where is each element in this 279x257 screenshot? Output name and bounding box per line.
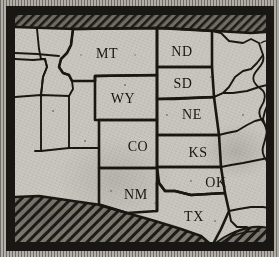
map-drawing: MT ND SD WY NE CO KS NM OK TX — [15, 15, 266, 242]
state-label-nm: NM — [124, 187, 148, 202]
state-label-co: CO — [128, 139, 149, 154]
map-root: MT ND SD WY NE CO KS NM OK TX — [0, 0, 279, 257]
state-label-ne: NE — [182, 107, 202, 122]
state-label-sd: SD — [173, 76, 192, 91]
state-label-ks: KS — [188, 145, 207, 160]
state-label-mt: MT — [96, 46, 118, 61]
state-label-ok: OK — [205, 175, 226, 190]
state-label-wy: WY — [111, 91, 136, 106]
map-frame-inner: MT ND SD WY NE CO KS NM OK TX — [15, 15, 266, 242]
state-label-tx: TX — [184, 209, 204, 224]
map-frame-outer: MT ND SD WY NE CO KS NM OK TX — [6, 6, 274, 251]
state-label-nd: ND — [171, 44, 192, 59]
